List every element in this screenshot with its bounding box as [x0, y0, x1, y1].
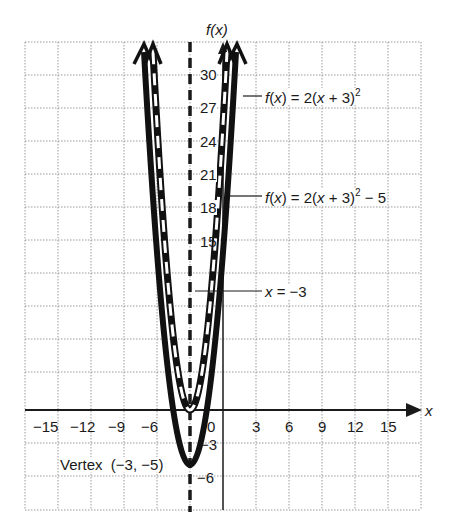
y-axis-label: f(x) [206, 22, 228, 37]
ann-text: − 5 [361, 189, 386, 206]
ann-text: + 3) [325, 189, 355, 206]
y-tick-text: 15 [200, 233, 217, 250]
annotation-base-function: f(x) = 2(x + 3)2 [265, 88, 361, 105]
ann-text: x [265, 283, 273, 300]
y-tick-label: 15 [200, 234, 217, 249]
y-tick-text: 21 [200, 166, 217, 183]
x-axis-arrow-icon [406, 403, 422, 417]
y-tick-label: 27 [200, 100, 217, 115]
ann-text: 2 [355, 87, 361, 98]
x-tick-label: −6 [141, 419, 158, 434]
x-tick-label: 12 [347, 419, 364, 434]
x-tick-text: −6 [141, 418, 158, 435]
x-axis-label: x [425, 403, 433, 418]
annotation-vertex: Vertex (−3, −5) [60, 457, 165, 472]
x-tick-text: −15 [33, 418, 58, 435]
ann-text: x [317, 189, 325, 206]
y-tick-label: −6 [197, 470, 214, 485]
ann-text: + 3) [325, 89, 355, 106]
y-axis-label-text: f(x) [206, 21, 228, 38]
y-tick-text: −3 [200, 436, 217, 453]
ann-text: Vertex (−3, −5) [60, 456, 163, 473]
x-tick-label: 9 [318, 419, 326, 434]
x-tick-text: 0 [207, 418, 215, 435]
x-tick-label: 6 [285, 419, 293, 434]
x-tick-label: 0 [207, 419, 215, 434]
x-tick-label: 15 [380, 419, 397, 434]
y-tick-text: 24 [200, 133, 217, 150]
y-tick-label: 21 [200, 167, 217, 182]
x-tick-text: 3 [252, 418, 260, 435]
x-tick-text: 9 [318, 418, 326, 435]
annotation-shifted-function: f(x) = 2(x + 3)2 − 5 [265, 188, 386, 205]
y-tick-text: 18 [200, 199, 217, 216]
ann-text: ) = 2( [282, 89, 317, 106]
x-tick-text: 6 [285, 418, 293, 435]
y-tick-text: 27 [200, 99, 217, 116]
y-tick-label: 24 [200, 134, 217, 149]
x-tick-text: 12 [347, 418, 364, 435]
x-tick-text: −12 [70, 418, 95, 435]
ann-text: x [274, 89, 282, 106]
y-tick-label: 30 [200, 67, 217, 82]
ann-text: x [317, 89, 325, 106]
x-tick-label: 3 [252, 419, 260, 434]
y-tick-label: 18 [200, 200, 217, 215]
ann-text: ) = 2( [282, 189, 317, 206]
annotation-axis-of-symmetry: x = −3 [265, 284, 307, 299]
x-tick-label: −12 [70, 419, 95, 434]
y-tick-text: −6 [197, 469, 214, 486]
x-tick-label: −15 [33, 419, 58, 434]
x-tick-text: 15 [380, 418, 397, 435]
x-axis-label-text: x [425, 402, 433, 419]
y-tick-text: 30 [200, 66, 217, 83]
x-tick-text: −9 [108, 418, 125, 435]
ann-text: = −3 [273, 283, 307, 300]
x-tick-label: −9 [108, 419, 125, 434]
y-tick-label: −3 [200, 437, 217, 452]
parabola-chart [0, 0, 453, 528]
ann-text: x [274, 189, 282, 206]
